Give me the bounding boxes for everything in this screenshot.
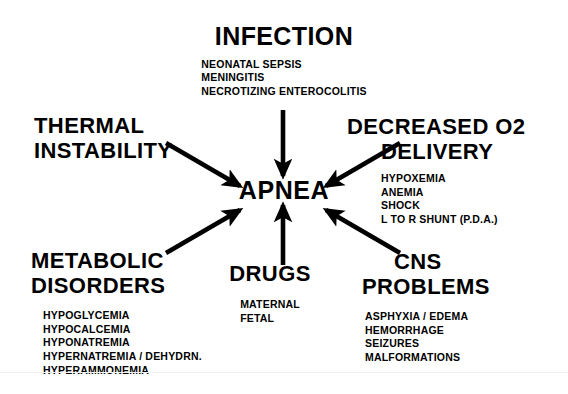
list-item: ASPHYXIA / EDEMA — [365, 310, 490, 324]
list-item: HYPOCALCEMIA — [43, 323, 202, 337]
list-item: HEMORRHAGE — [365, 324, 490, 338]
node-cns-problems-heading: CNS PROBLEMS — [362, 249, 490, 299]
node-metabolic-disorders: METABOLIC DISORDERS HYPOGLYCEMIA HYPOCAL… — [31, 248, 202, 377]
list-item: HYPOXEMIA — [381, 172, 525, 186]
list-item: L TO R SHUNT (P.D.A.) — [381, 213, 525, 227]
node-cns-problems-heading-line-2: PROBLEMS — [362, 274, 490, 299]
list-item: FETAL — [240, 312, 300, 326]
node-drugs-heading: DRUGS — [190, 261, 350, 286]
node-metabolic-disorders-heading-line-1: METABOLIC — [31, 248, 202, 273]
node-infection: INFECTION NEONATAL SEPSIS MENINGITIS NEC… — [0, 22, 568, 99]
node-infection-heading: INFECTION — [0, 22, 568, 51]
node-thermal-instability-heading-line-1: THERMAL — [34, 113, 172, 138]
list-item: SEIZURES — [365, 337, 490, 351]
node-decreased-o2-delivery-heading-line-2: DELIVERY — [347, 139, 525, 164]
node-decreased-o2-delivery: DECREASED O2 DELIVERY HYPOXEMIA ANEMIA S… — [347, 114, 525, 227]
node-thermal-instability-heading: THERMAL INSTABILITY — [34, 113, 172, 163]
list-item: HYPONATREMIA — [43, 336, 202, 350]
node-infection-heading-line-1: INFECTION — [0, 22, 568, 51]
list-item: ANEMIA — [381, 186, 525, 200]
list-item: MENINGITIS — [201, 71, 366, 85]
list-item: HYPERAMMONEMIA — [43, 364, 202, 378]
apnea-causes-diagram: APNEA INFECTION NEONATAL SEPSIS MENINGIT… — [0, 0, 568, 394]
node-decreased-o2-delivery-items: HYPOXEMIA ANEMIA SHOCK L TO R SHUNT (P.D… — [347, 172, 525, 227]
node-drugs-heading-line-1: DRUGS — [190, 261, 350, 286]
node-thermal-instability: THERMAL INSTABILITY — [34, 113, 172, 163]
page-bottom-edge — [0, 372, 568, 373]
list-item: HYPOGLYCEMIA — [43, 309, 202, 323]
list-item: SHOCK — [381, 199, 525, 213]
list-item: HYPERNATREMIA / DEHYDRN. — [43, 350, 202, 364]
node-metabolic-disorders-items: HYPOGLYCEMIA HYPOCALCEMIA HYPONATREMIA H… — [31, 309, 202, 377]
list-item: MATERNAL — [240, 298, 300, 312]
node-metabolic-disorders-heading-line-2: DISORDERS — [31, 273, 202, 298]
list-item: NEONATAL SEPSIS — [201, 58, 366, 72]
arrow-metabolic-to-apnea — [166, 210, 240, 253]
node-drugs-items: MATERNAL FETAL — [240, 298, 300, 325]
list-item: MALFORMATIONS — [365, 351, 490, 365]
node-cns-problems: CNS PROBLEMS ASPHYXIA / EDEMA HEMORRHAGE… — [362, 249, 490, 365]
node-metabolic-disorders-heading: METABOLIC DISORDERS — [31, 248, 202, 298]
node-cns-problems-heading-line-1: CNS — [362, 249, 490, 274]
node-drugs: DRUGS MATERNAL FETAL — [190, 261, 350, 326]
node-thermal-instability-heading-line-2: INSTABILITY — [34, 138, 172, 163]
list-item: NECROTIZING ENTEROCOLITIS — [201, 85, 366, 99]
node-cns-problems-items: ASPHYXIA / EDEMA HEMORRHAGE SEIZURES MAL… — [362, 310, 490, 365]
node-decreased-o2-delivery-heading-line-1: DECREASED O2 — [347, 114, 525, 139]
node-infection-items: NEONATAL SEPSIS MENINGITIS NECROTIZING E… — [201, 58, 366, 99]
node-decreased-o2-delivery-heading: DECREASED O2 DELIVERY — [347, 114, 525, 164]
